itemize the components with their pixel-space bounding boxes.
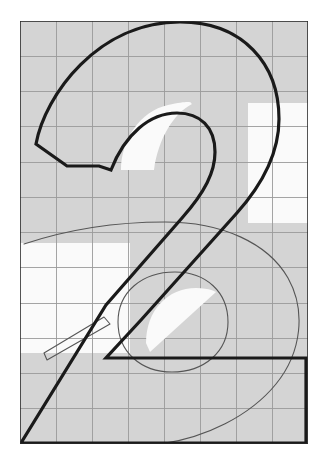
glyph-diagram-canvas: [0, 0, 328, 469]
glyph-overlay-svg: [0, 0, 328, 469]
